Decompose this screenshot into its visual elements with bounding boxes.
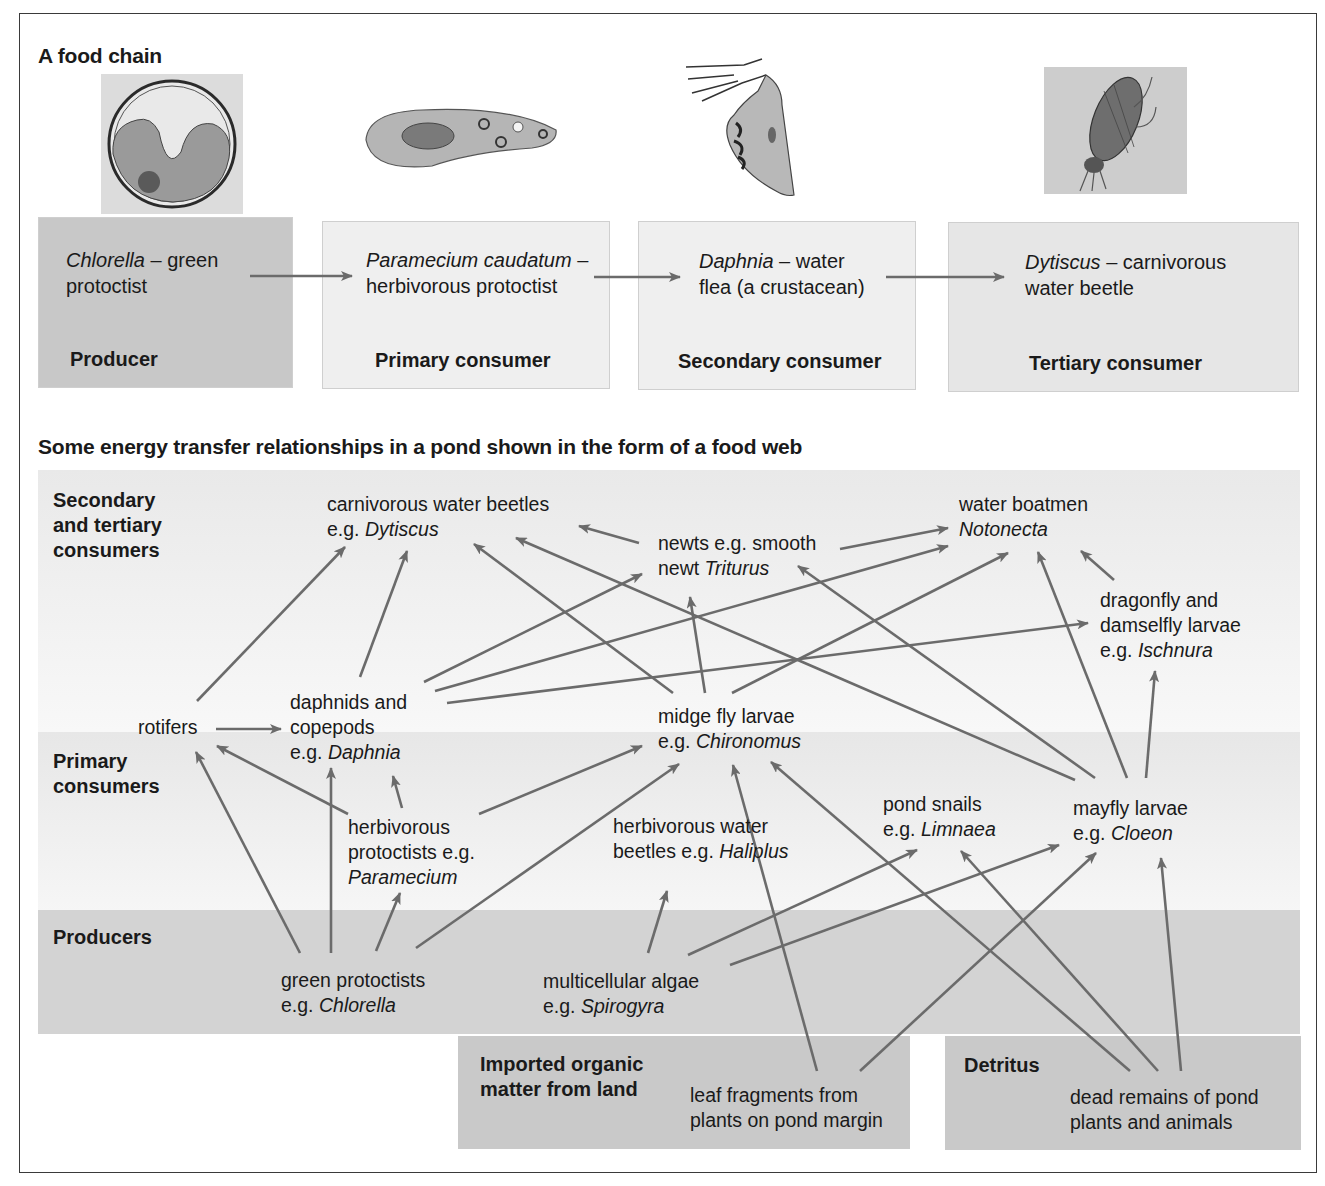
node-rotifers: rotifers [138, 715, 198, 740]
node-dead-remains: dead remains of pond plants and animals [1070, 1085, 1259, 1135]
node-mayfly-larvae: mayfly larvae e.g. Cloeon [1073, 796, 1188, 846]
node-water-boatmen: water boatmen Notonecta [959, 492, 1088, 542]
node-green-protoctists: green protoctists e.g. Chlorella [281, 968, 425, 1018]
node-carnivorous-water-beetles: carnivorous water beetles e.g. Dytiscus [327, 492, 549, 542]
node-newts: newts e.g. smooth newt Triturus [658, 531, 816, 581]
node-leaf-fragments: leaf fragments from plants on pond margi… [690, 1083, 883, 1133]
node-midge-fly-larvae: midge fly larvae e.g. Chironomus [658, 704, 801, 754]
node-herbivorous-water-beetles: herbivorous water beetles e.g. Haliplus [613, 814, 789, 864]
node-pond-snails: pond snails e.g. Limnaea [883, 792, 996, 842]
node-dragonfly-damselfly-larvae: dragonfly and damselfly larvae e.g. Isch… [1100, 588, 1241, 663]
node-herbivorous-protoctists: herbivorous protoctists e.g. Paramecium [348, 815, 475, 890]
node-multicellular-algae: multicellular algae e.g. Spirogyra [543, 969, 699, 1019]
node-daphnids-copepods: daphnids and copepods e.g. Daphnia [290, 690, 407, 765]
